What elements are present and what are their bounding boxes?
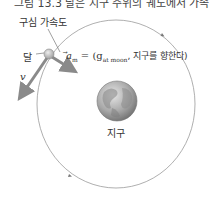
velocity-symbol: v bbox=[20, 71, 26, 82]
velocity-label: v bbox=[20, 71, 26, 82]
centripetal-acceleration-label: 구심 가속도 bbox=[19, 14, 67, 29]
moon-label: 달 bbox=[23, 49, 32, 64]
moon-body bbox=[44, 49, 54, 59]
orbit-direction-arrow-bottom bbox=[68, 174, 72, 177]
acceleration-equals: = (g bbox=[78, 50, 103, 61]
earth-label: 지구 bbox=[107, 125, 125, 140]
centripetal-leader-line bbox=[48, 29, 60, 52]
acceleration-direction: , 지구를 향한다) bbox=[127, 51, 187, 61]
acceleration-label: ⃗am = (gat moon, 지구를 향한다) bbox=[66, 49, 188, 63]
orbit-diagram bbox=[0, 0, 209, 200]
moon-leader-line bbox=[36, 53, 44, 54]
acceleration-g-subscript: at moon bbox=[103, 56, 128, 63]
acceleration-symbol: ⃗a bbox=[66, 50, 72, 61]
